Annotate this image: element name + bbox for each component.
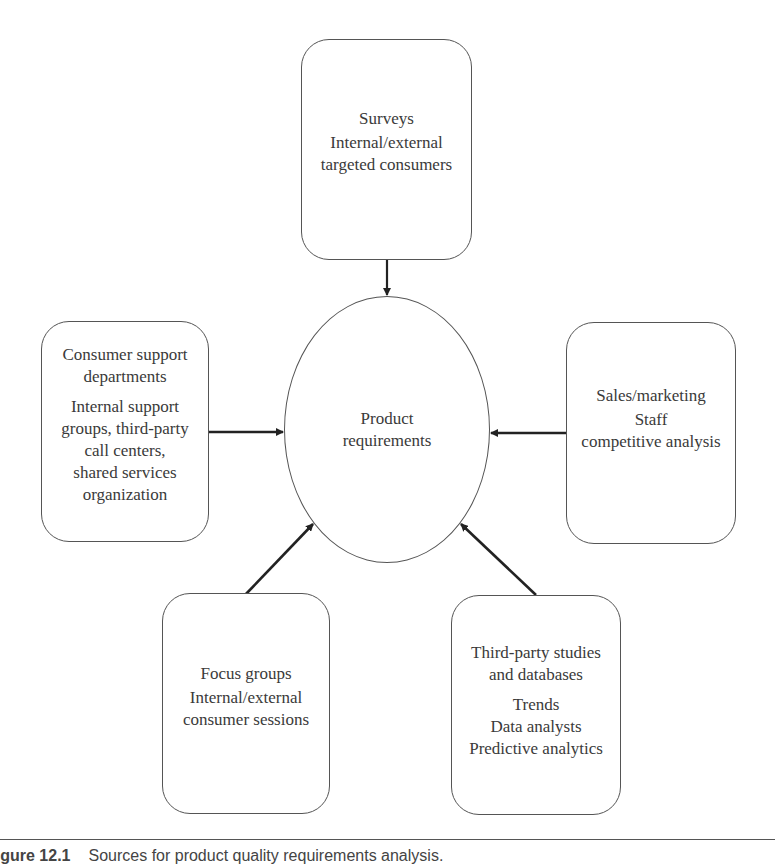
- source-title: Sales/marketing: [596, 385, 706, 407]
- figure-number: Figure 12.1: [0, 847, 70, 864]
- caption-divider: [0, 839, 775, 840]
- source-detail: Trends Data analysts Predictive analytic…: [469, 694, 603, 760]
- source-title: Surveys: [359, 108, 414, 130]
- arrow-focus-groups-to-center: [246, 524, 313, 594]
- source-title: Focus groups: [200, 663, 291, 685]
- center-label: Product requirements: [343, 408, 432, 452]
- source-detail: Staff competitive analysis: [581, 409, 720, 453]
- arrow-third-party-studies-to-center: [461, 524, 536, 595]
- source-title: Third-party studies and databases: [471, 642, 601, 686]
- source-detail: Internal support groups, third-party cal…: [61, 396, 188, 506]
- source-detail: Internal/external targeted consumers: [321, 132, 452, 176]
- source-title: Consumer support departments: [62, 344, 187, 388]
- source-node-sales-marketing: Sales/marketing Staff competitive analys…: [566, 322, 736, 544]
- source-node-consumer-support: Consumer support departments Internal su…: [41, 321, 209, 542]
- figure-caption: Figure 12.1Sources for product quality r…: [0, 846, 443, 866]
- caption-text: Sources for product quality requirements…: [88, 847, 443, 864]
- source-node-focus-groups: Focus groups Internal/external consumer …: [162, 593, 330, 814]
- source-node-third-party-studies: Third-party studies and databases Trends…: [451, 595, 621, 815]
- source-detail: Internal/external consumer sessions: [183, 687, 309, 731]
- center-node-product-requirements: Product requirements: [284, 296, 490, 563]
- source-node-surveys: Surveys Internal/external targeted consu…: [301, 39, 472, 260]
